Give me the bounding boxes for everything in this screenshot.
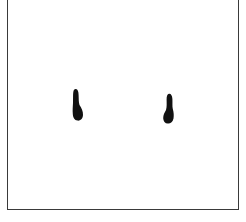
ink-spot-right — [162, 93, 175, 124]
ink-spot-left — [71, 88, 84, 121]
drawing-frame — [7, 0, 239, 210]
blob-right-shape — [162, 93, 175, 124]
blob-left-shape — [71, 88, 84, 121]
